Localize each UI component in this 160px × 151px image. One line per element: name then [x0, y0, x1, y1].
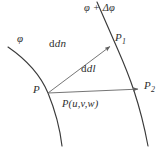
label-point-p2: P2 — [144, 80, 155, 94]
figure-container: φ φ + Δφ ddn ddl P P1 P2 P(u,v,w) — [0, 0, 160, 151]
equipotential-curve-phi — [8, 47, 62, 146]
label-dl-l: dl — [87, 62, 96, 74]
label-phi: φ — [17, 33, 23, 44]
vector-dl-arrow — [48, 89, 138, 93]
label-point-p: P — [33, 84, 40, 95]
diagram-canvas — [0, 0, 160, 151]
label-vector-dl: ddl — [81, 63, 96, 74]
label-p2-base: P — [144, 79, 151, 91]
label-point-p1: P1 — [115, 32, 126, 46]
equipotential-curve-phi-delta — [97, 2, 148, 146]
label-phi-plus-delta-phi: φ + Δφ — [84, 3, 115, 14]
label-p1-base: P — [115, 31, 122, 43]
label-vector-dn: ddn — [49, 38, 66, 49]
label-point-coordinates: P(u,v,w) — [62, 99, 98, 110]
label-dn-n: dn — [55, 37, 66, 49]
vector-dn-arrow — [48, 47, 110, 93]
label-p1-subscript: 1 — [122, 37, 126, 46]
label-p2-subscript: 2 — [151, 85, 155, 94]
